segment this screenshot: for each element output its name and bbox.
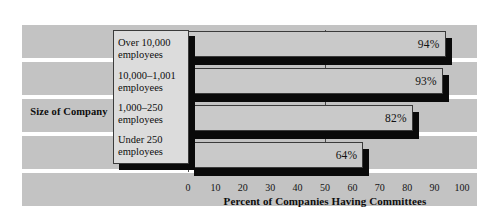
x-axis-tick-label: 90 <box>430 182 440 193</box>
x-axis-tick-label: 10 <box>210 182 220 193</box>
x-axis-tick-label: 80 <box>402 182 412 193</box>
category-label-line: 1,000–250 <box>118 102 188 114</box>
x-axis-title: Percent of Companies Having Committees <box>188 195 462 207</box>
category-label-line: 10,000–1,001 <box>118 70 188 82</box>
x-axis-tick-label: 0 <box>186 182 191 193</box>
bar-under-250-employees: 64% <box>188 142 363 168</box>
plot-area: 94% 93% 82% 64% Over 10,000 e <box>0 0 490 221</box>
category-label-line: employees <box>118 82 188 94</box>
category-label-line: employees <box>118 49 188 61</box>
bar-value-label: 64% <box>336 149 358 161</box>
bar-value-label: 82% <box>385 112 407 124</box>
y-axis-title: Size of Company <box>28 106 110 117</box>
x-axis-tick-label: 70 <box>375 182 385 193</box>
x-axis-tick-label: 100 <box>455 182 470 193</box>
x-axis-tick-label: 40 <box>293 182 303 193</box>
category-label-box: Over 10,000 employees 10,000–1,001 emplo… <box>113 30 189 164</box>
bar-1000-250-employees: 82% <box>188 105 413 131</box>
bar-chart-figure: 94% 93% 82% 64% Over 10,000 e <box>0 0 490 221</box>
x-axis-tick-label: 60 <box>347 182 357 193</box>
category-label-line: employees <box>118 114 188 126</box>
category-label: 1,000–250 employees <box>118 98 188 129</box>
x-axis-tick-label: 30 <box>265 182 275 193</box>
x-axis-tick-label: 20 <box>238 182 248 193</box>
bar-value-label: 94% <box>418 38 440 50</box>
category-label-line: Over 10,000 <box>118 37 188 49</box>
category-label: 10,000–1,001 employees <box>118 66 188 97</box>
category-label-line: employees <box>118 146 188 158</box>
bar-10000-1001-employees: 93% <box>188 68 443 94</box>
category-label: Over 10,000 employees <box>118 33 188 64</box>
category-label-line: Under 250 <box>118 134 188 146</box>
bar-over-10000-employees: 94% <box>188 31 446 57</box>
category-label: Under 250 employees <box>118 130 188 161</box>
x-axis-tick-label: 50 <box>320 182 330 193</box>
bar-value-label: 93% <box>415 75 437 87</box>
